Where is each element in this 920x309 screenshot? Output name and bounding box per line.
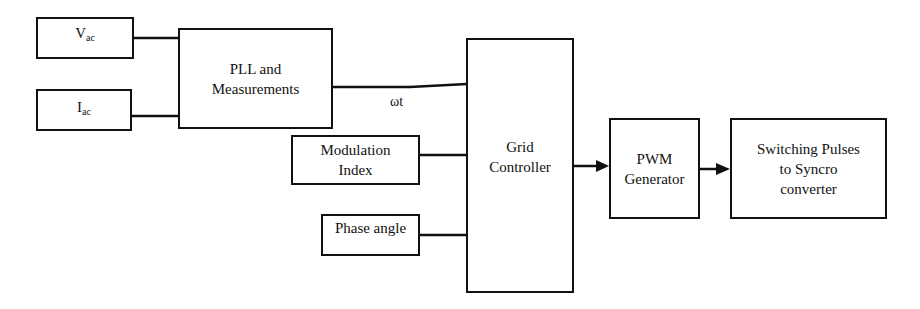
omega-t-label: ωt <box>390 94 403 110</box>
pll-to-grid-line <box>333 84 467 87</box>
arrow-head-icon <box>596 160 609 172</box>
connectors <box>0 0 920 309</box>
arrow-head-icon <box>716 163 730 175</box>
